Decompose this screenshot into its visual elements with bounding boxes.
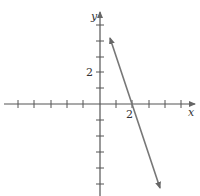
coordinate-plane: y x 2 2 — [0, 0, 200, 196]
x-axis-label: x — [188, 106, 195, 119]
plotted-line — [110, 38, 132, 104]
y-axis-label: y — [90, 10, 98, 23]
x-tick-label-2: 2 — [126, 108, 133, 121]
y-tick-label-2: 2 — [86, 66, 93, 79]
plotted-line-lower — [132, 104, 160, 188]
